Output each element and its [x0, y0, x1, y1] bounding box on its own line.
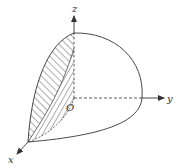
x-axis	[17, 142, 28, 154]
y-axis-label: y	[166, 93, 173, 104]
z-axis-label: z	[71, 3, 78, 14]
x-axis-label: x	[8, 154, 14, 165]
origin-label: O	[66, 102, 74, 113]
diagram-canvas: z y x O	[0, 0, 182, 168]
